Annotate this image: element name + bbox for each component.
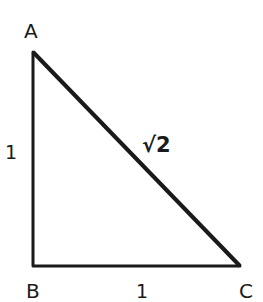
vertex-label-a: A [24, 19, 38, 43]
vertex-label-c: C [239, 279, 253, 302]
vertex-label-b: B [26, 279, 40, 302]
side-label-ab: 1 [5, 141, 17, 163]
side-label-bc: 1 [136, 280, 148, 302]
side-label-ac: √2 [142, 133, 171, 157]
hypotenuse-ac [33, 52, 240, 266]
triangle-diagram: A B C 1 1 √2 [0, 0, 263, 302]
